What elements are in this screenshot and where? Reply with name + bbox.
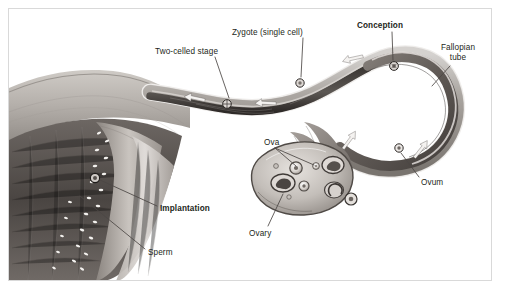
label-two-celled-stage: Two-celled stage	[155, 47, 218, 57]
label-sperm: Sperm	[148, 248, 173, 258]
label-implantation: Implantation	[160, 204, 210, 214]
ovary	[252, 142, 357, 215]
figure-container: Two-celled stage Zygote (single cell) Co…	[0, 0, 508, 296]
two-cell-marker	[223, 100, 232, 109]
label-zygote: Zygote (single cell)	[232, 28, 303, 38]
label-fallopian-tube: Fallopian tube	[432, 43, 484, 63]
ovum-marker	[395, 144, 403, 152]
implantation-marker	[90, 173, 99, 182]
label-ovum: Ovum	[421, 178, 443, 188]
conception-marker	[390, 62, 399, 71]
label-ovary: Ovary	[249, 229, 271, 239]
label-conception: Conception	[357, 21, 403, 31]
zygote-marker	[296, 79, 304, 87]
label-ova: Ova	[264, 138, 279, 148]
released-ovum	[345, 193, 357, 205]
